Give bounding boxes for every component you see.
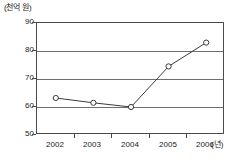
y-tick-label-80: 80 xyxy=(12,46,34,54)
data-markers xyxy=(53,40,209,110)
data-point-2002 xyxy=(53,95,58,100)
y-tick-label-90: 90 xyxy=(12,18,34,26)
data-point-2004 xyxy=(128,104,133,109)
plot-area xyxy=(36,22,224,134)
x-axis-unit-label: (년) xyxy=(211,140,223,149)
data-point-2003 xyxy=(91,100,96,105)
data-series-layer xyxy=(37,23,225,135)
x-tick-label-2004: 2004 xyxy=(115,140,145,149)
data-point-2006 xyxy=(204,40,209,45)
x-tick-label-2002: 2002 xyxy=(40,140,70,149)
y-tick-mark-50 xyxy=(32,134,36,135)
data-line xyxy=(56,43,206,107)
y-axis-unit-label: (천억 원) xyxy=(4,3,31,13)
y-tick-label-60: 60 xyxy=(12,102,34,110)
y-tick-label-70: 70 xyxy=(12,74,34,82)
x-tick-label-2003: 2003 xyxy=(77,140,107,149)
y-tick-label-50: 50 xyxy=(12,130,34,138)
x-tick-label-2005: 2005 xyxy=(153,140,183,149)
line-chart: (천억 원) 5060708090 20022003200420052006 (… xyxy=(0,0,237,162)
data-point-2005 xyxy=(166,64,171,69)
